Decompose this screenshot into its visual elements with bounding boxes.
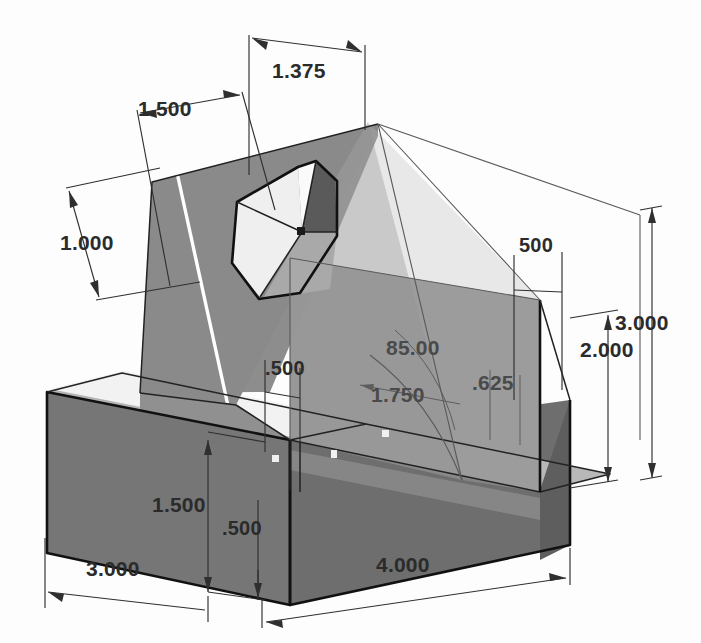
- cad-drawing-canvas: 1.375 1.500 1.000 .500: [0, 0, 701, 643]
- dim-500-right-label: 500: [519, 234, 553, 256]
- dim-1375-label: 1.375: [272, 59, 326, 82]
- dim-3000-bottom-label: 3.000: [86, 557, 140, 580]
- dim-1750-label: 1.750: [371, 383, 425, 406]
- dim-2000: 2.000: [570, 310, 634, 488]
- dim-3000-right-label: 3.000: [615, 311, 669, 334]
- hole-corner-marker: [297, 227, 305, 235]
- floor-marker-3: [272, 455, 279, 462]
- floor-marker-1: [382, 430, 389, 437]
- dim-1500-top-label: 1.500: [138, 97, 192, 120]
- dim-8500-label: 85.00: [386, 336, 440, 359]
- dim-500-upper-label: .500: [265, 357, 305, 379]
- floor-marker-2: [331, 450, 337, 458]
- dim-4000-label: 4.000: [376, 553, 430, 576]
- dim-625-label: .625: [472, 371, 514, 394]
- dim-2000-label: 2.000: [580, 338, 634, 361]
- dim-500-lower-label: .500: [222, 517, 262, 539]
- dim-1000-label: 1.000: [60, 231, 114, 254]
- dim-1500-left-label: 1.500: [152, 493, 206, 516]
- cad-viewport: 1.375 1.500 1.000 .500: [0, 0, 701, 643]
